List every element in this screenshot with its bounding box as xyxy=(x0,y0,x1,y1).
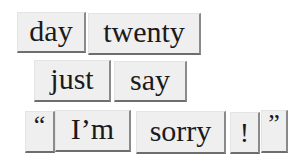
word-tile-label: sorry xyxy=(150,116,212,146)
word-tile-label: just xyxy=(50,64,93,94)
word-tile-sorry[interactable]: sorry xyxy=(136,111,226,154)
word-tile-say[interactable]: say xyxy=(114,61,187,102)
word-tile-twenty[interactable]: twenty xyxy=(88,13,201,55)
word-tile-just[interactable]: just xyxy=(34,60,111,102)
word-tile-label: twenty xyxy=(103,17,185,47)
word-tile-label: “ xyxy=(34,112,46,138)
word-tile-day[interactable]: day xyxy=(17,12,86,53)
word-tile-right-quote[interactable]: ” xyxy=(261,110,288,153)
word-tile-im[interactable]: I’m xyxy=(55,110,131,152)
word-tile-left-quote[interactable]: “ xyxy=(25,111,55,153)
word-tile-label: say xyxy=(130,65,170,95)
word-tile-label: I’m xyxy=(71,114,114,144)
word-tile-label: ” xyxy=(268,111,280,137)
word-tile-label: day xyxy=(29,16,72,46)
word-tile-exclamation[interactable]: ! xyxy=(230,112,260,154)
word-tile-label: ! xyxy=(240,119,249,147)
